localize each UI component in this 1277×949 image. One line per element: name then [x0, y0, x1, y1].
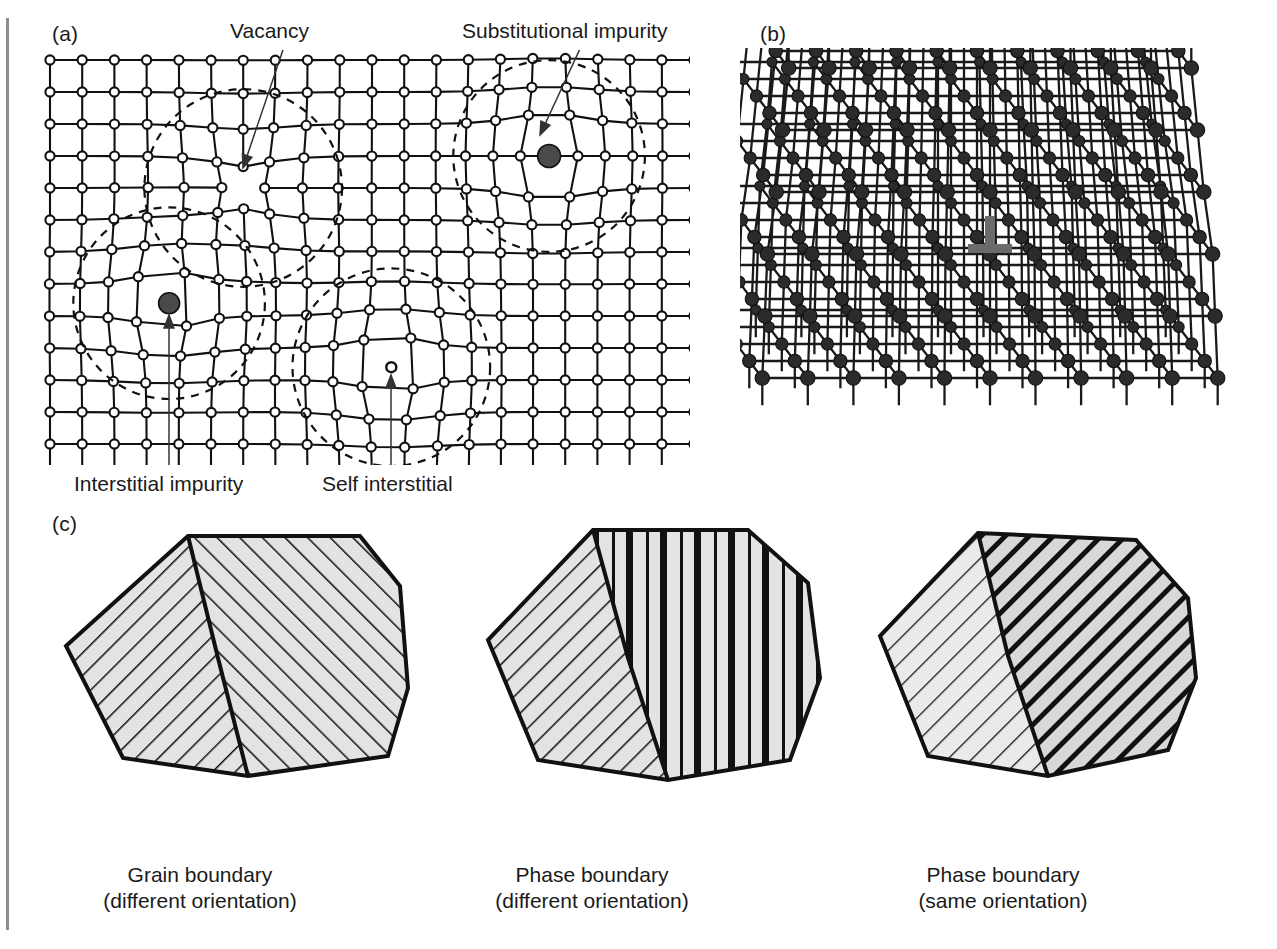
lattice-atom	[1086, 152, 1098, 164]
lattice-atom	[848, 309, 862, 323]
lattice-atom	[1150, 292, 1163, 305]
lattice-atom	[1119, 371, 1133, 385]
lattice-atom	[180, 183, 189, 192]
lattice-atom	[1124, 90, 1136, 102]
panel-a-letter: (a)	[52, 22, 78, 46]
lattice-atom	[142, 55, 151, 64]
lattice-atom	[303, 88, 312, 97]
lattice-atom	[439, 340, 448, 349]
lattice-atom	[400, 277, 409, 286]
panel-c-grains-diagram	[48, 528, 1248, 858]
lattice-atom	[1190, 123, 1204, 137]
lattice-atom	[943, 61, 957, 75]
lattice-atom	[593, 248, 602, 257]
lattice-atom	[45, 407, 54, 416]
lattice-atom	[757, 168, 770, 181]
lattice-atom	[301, 343, 310, 352]
lattice-atom	[788, 354, 801, 367]
lattice-atom	[142, 88, 151, 97]
lattice-atom	[889, 181, 899, 191]
lattice-atom	[561, 439, 570, 448]
lattice-atom	[400, 87, 409, 96]
lattice-atom	[1126, 260, 1137, 271]
lattice-atom	[745, 292, 758, 305]
lattice-atom	[45, 55, 54, 64]
lattice-atom	[1003, 338, 1015, 350]
lattice-atom	[45, 119, 54, 128]
lattice-atom	[464, 55, 473, 64]
lattice-atom	[406, 334, 415, 343]
lattice-atom	[792, 230, 805, 243]
lattice-atom	[516, 151, 525, 160]
lattice-atom	[958, 214, 970, 226]
lattice-atom	[1116, 247, 1130, 261]
lattice-atom	[657, 407, 666, 416]
grain-2-phase-boundary-different-orientation	[448, 528, 848, 828]
lattice-atom	[142, 439, 151, 448]
label-vacancy: Vacancy	[230, 19, 309, 43]
lattice-atom	[271, 440, 280, 449]
lattice-atom	[916, 90, 928, 102]
lattice-atom	[625, 407, 634, 416]
lattice-atom	[215, 314, 224, 323]
lattice-atom	[110, 439, 119, 448]
lattice-atom	[496, 440, 505, 449]
lattice-atom	[1154, 185, 1168, 199]
lattice-atom	[1208, 309, 1222, 323]
lattice-atom	[1181, 214, 1193, 226]
label-substitutional-impurity: Substitutional impurity	[462, 19, 667, 43]
lattice-atom	[1003, 276, 1015, 288]
lattice-atom	[431, 151, 440, 160]
lattice-atom	[1129, 152, 1141, 164]
lattice-atom	[335, 55, 344, 64]
lattice-atom	[1063, 61, 1077, 75]
lattice-atom	[400, 183, 409, 192]
lattice-atom	[1049, 338, 1061, 350]
lattice-atom	[497, 376, 506, 385]
lattice-atom	[848, 119, 858, 129]
lattice-atom	[958, 276, 970, 288]
lattice-atom	[689, 375, 690, 384]
lattice-atom	[689, 119, 690, 128]
lattice-atom	[465, 440, 474, 449]
lattice-atom	[1104, 230, 1117, 243]
lattice-atom	[335, 247, 344, 256]
lattice-atom	[494, 85, 503, 94]
lattice-atom	[359, 335, 368, 344]
lattice-atom	[1068, 185, 1082, 199]
lattice-atom	[271, 311, 280, 320]
lattice-atom	[890, 119, 900, 129]
lattice-atom	[76, 279, 85, 288]
lattice-atom	[497, 343, 506, 352]
lattice-atom	[595, 218, 604, 227]
lattice-atom	[524, 111, 533, 120]
figure-root: (a) Vacancy Substitutional impurity Inte…	[0, 0, 1277, 949]
lattice-atom	[894, 247, 908, 261]
lattice-atom	[367, 152, 376, 161]
substitutional-impurity-atom	[538, 145, 561, 168]
lattice-atom	[1047, 214, 1059, 226]
lattice-atom	[436, 411, 445, 420]
lattice-atom	[367, 442, 376, 451]
lattice-atom	[767, 57, 777, 67]
lattice-atom	[593, 407, 602, 416]
lattice-atom	[812, 185, 826, 199]
lattice-atom	[1144, 61, 1158, 75]
lattice-atom	[627, 119, 636, 128]
lattice-atom	[528, 280, 537, 289]
lattice-atom	[625, 55, 634, 64]
lattice-atom	[1148, 230, 1161, 243]
lattice-atom	[78, 439, 87, 448]
lattice-atom	[432, 247, 441, 256]
lattice-atom	[743, 354, 756, 367]
lattice-atom	[593, 343, 602, 352]
lattice-atom	[260, 183, 269, 192]
lattice-atom	[78, 119, 87, 128]
lattice-atom	[462, 184, 471, 193]
lattice-atom	[850, 48, 863, 58]
lattice-atom	[625, 343, 634, 352]
self-interstitial-leader-arrowhead	[386, 375, 396, 388]
lattice-atom	[367, 120, 376, 129]
lattice-atom	[432, 216, 441, 225]
lattice-atom	[970, 106, 983, 119]
